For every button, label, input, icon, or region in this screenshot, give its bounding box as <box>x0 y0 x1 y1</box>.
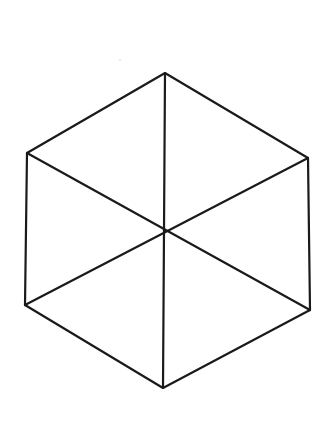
hexagon-diagram <box>0 0 331 423</box>
speck <box>119 59 121 61</box>
diagonal-upper-right-to-lower-left <box>25 158 308 305</box>
